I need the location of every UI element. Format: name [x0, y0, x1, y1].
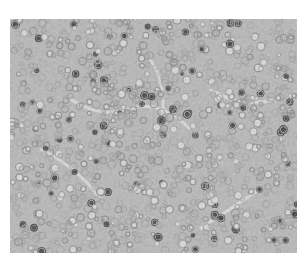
histology-micrograph	[10, 19, 297, 253]
tissue-texture	[10, 19, 297, 253]
